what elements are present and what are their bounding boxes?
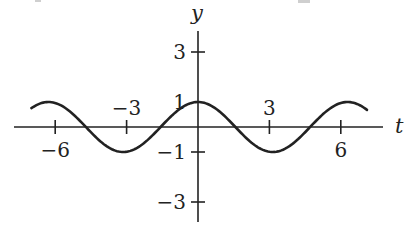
y-axis-label: y — [190, 1, 204, 25]
axes: y t — [14, 1, 404, 222]
x-tick-label: 6 — [334, 138, 347, 162]
x-tick-label: −6 — [40, 138, 69, 162]
x-tick-label: 3 — [263, 96, 276, 120]
y-tick-label: −1 — [157, 140, 186, 164]
y-tick-label: −3 — [157, 190, 186, 214]
x-tick-label: −3 — [112, 96, 141, 120]
cropped-text-fragment — [298, 0, 310, 3]
cropped-text-fragment — [35, 0, 41, 2]
x-axis-label: t — [395, 114, 404, 138]
cosine-plot: y t −6−336 31−1−3 — [0, 0, 410, 231]
y-tick-label: 3 — [173, 40, 186, 64]
